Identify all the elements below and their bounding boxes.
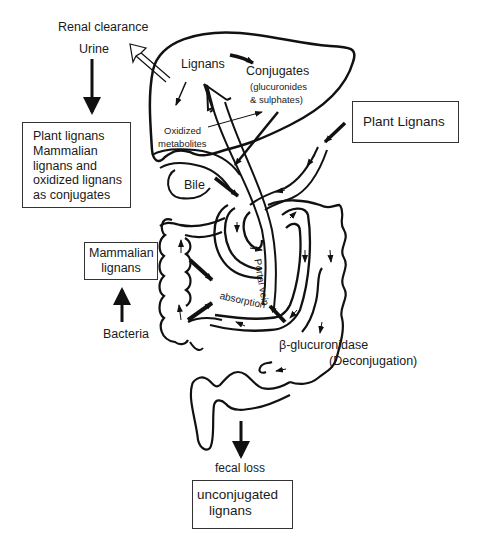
fecal-loss-label: fecal loss	[215, 462, 265, 476]
urine-box-line-3: lignans and	[33, 159, 122, 174]
bacteria-label: Bacteria	[103, 327, 149, 341]
renal-clearance-label: Renal clearance	[58, 20, 148, 34]
mammalian-lignans-box: Mammalian lignans	[84, 242, 158, 280]
ascending-colon	[160, 219, 189, 344]
conjugates-detail-1: (glucuronides	[250, 82, 307, 93]
metabolites-label: metabolites	[158, 139, 207, 150]
urine-label: Urine	[79, 42, 109, 56]
mammalian-line-1: Mammalian	[89, 246, 153, 261]
plant-lignans-box: Plant Lignans	[352, 101, 459, 143]
urine-box-line-4: oxidized lignans	[33, 173, 122, 188]
lignan-metabolism-diagram: Renal clearance Urine Lignans Conjugates…	[0, 0, 478, 549]
urine-conjugates-box: Plant lignans Mammalian lignans and oxid…	[22, 122, 131, 208]
oxidized-label: Oxidized	[164, 126, 201, 137]
deconjugation-label: (Deconjugation)	[329, 354, 417, 368]
bile-label: Bile	[184, 178, 205, 192]
unconjugated-lignans-box: unconjugated lignans	[192, 480, 293, 529]
urine-box-line-5: as conjugates	[33, 188, 122, 203]
urine-box-line-2: Mammalian	[33, 144, 122, 159]
plant-lignans-text: Plant Lignans	[363, 114, 445, 130]
figure-caption-cut-off	[20, 542, 470, 549]
beta-glucuronidase-label: β-glucuronidase	[279, 338, 368, 352]
conjugation-arrow	[230, 55, 253, 63]
unconjugated-line-1: unconjugated	[197, 487, 278, 503]
mammalian-line-2: lignans	[89, 261, 153, 276]
conjugates-detail-2: & sulphates)	[250, 95, 303, 106]
unconjugated-line-2: lignans	[197, 503, 278, 519]
liver-lignans-label: Lignans	[181, 57, 225, 71]
urine-box-line-1: Plant lignans	[33, 129, 122, 144]
conjugates-label: Conjugates	[246, 64, 309, 78]
